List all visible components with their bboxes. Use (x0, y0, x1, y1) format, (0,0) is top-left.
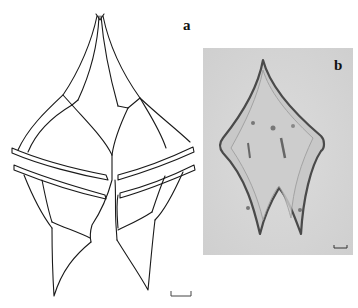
panel-b-micrograph: b (203, 48, 353, 255)
panel-label-b: b (334, 58, 342, 73)
scale-bar-b (333, 244, 348, 250)
panel-label-a: a (183, 18, 191, 33)
panel-a-line-drawing: a (0, 0, 200, 308)
scale-bar-a (170, 290, 192, 298)
dinoflagellate-photo (203, 48, 353, 255)
dinoflagellate-drawing (0, 0, 200, 308)
